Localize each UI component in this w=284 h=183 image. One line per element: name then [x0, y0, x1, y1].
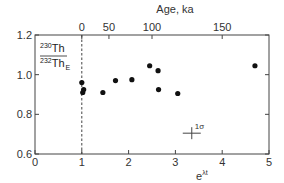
- data-point: [80, 90, 85, 95]
- svg-text:230Th: 230Th: [40, 42, 65, 54]
- x-tick-label: 0: [32, 156, 38, 168]
- scatter-chart: 0123450.60.81.01.2050100150 1σ Age, ka 2…: [0, 0, 284, 183]
- y-axis-label: 230Th 232ThE: [40, 42, 71, 71]
- x-tick-label: 2: [126, 156, 132, 168]
- data-point: [155, 68, 160, 73]
- x-tick-label: 4: [219, 156, 225, 168]
- y-tick-label: 1.2: [17, 29, 32, 41]
- x-tick-label: 5: [266, 156, 272, 168]
- data-point: [79, 80, 84, 85]
- top-tick-label: 150: [213, 21, 231, 33]
- top-axis-title: Age, ka: [156, 3, 194, 15]
- error-bar-label: 1σ: [195, 122, 204, 131]
- x-tick-label: 1: [79, 156, 85, 168]
- y-tick-label: 0.6: [17, 148, 32, 160]
- svg-text:eλt: eλt: [196, 169, 208, 182]
- data-point: [129, 77, 134, 82]
- y-tick-label: 1.0: [17, 69, 32, 81]
- svg-text:232ThE: 232ThE: [40, 57, 71, 71]
- top-tick-label: 50: [103, 21, 115, 33]
- top-tick-label: 100: [143, 21, 161, 33]
- x-axis-title: eλt: [196, 169, 208, 182]
- top-tick-label: 0: [79, 21, 85, 33]
- plot-border: [35, 35, 269, 154]
- data-point: [147, 63, 152, 68]
- x-tick-label: 3: [172, 156, 178, 168]
- y-tick-label: 0.8: [17, 108, 32, 120]
- data-point: [252, 63, 257, 68]
- data-point: [113, 78, 118, 83]
- data-point: [100, 90, 105, 95]
- error-bar-annotation: 1σ: [183, 122, 204, 139]
- plot-frame: [35, 35, 269, 154]
- data-point: [175, 91, 180, 96]
- data-points: [79, 63, 257, 96]
- data-point: [156, 87, 161, 92]
